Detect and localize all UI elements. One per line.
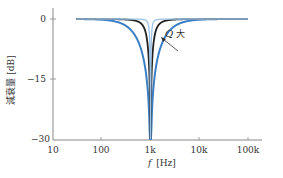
q-annotation: Q 大	[161, 28, 185, 51]
x-axis-symbol: f	[147, 158, 153, 168]
x-axis-unit: [Hz]	[156, 158, 176, 168]
notch-filter-chart: 0 −15 −30 10 100 1k 10k 100k f [Hz] 減衰量 …	[0, 0, 283, 178]
x-tick-label: 10	[47, 145, 59, 155]
y-ticks: 0 −15 −30	[27, 14, 56, 144]
x-axis-label: f [Hz]	[147, 158, 176, 168]
y-axis-label: 減衰量 [dB]	[5, 55, 16, 104]
annotation-arrow-line	[163, 39, 178, 51]
curve-low-q	[76, 19, 248, 139]
x-tick-label: 1k	[144, 145, 156, 155]
annotation-big: 大	[176, 28, 185, 39]
annotation-q: Q	[165, 28, 173, 39]
y-tick-label: −15	[27, 74, 46, 84]
y-tick-label: 0	[40, 14, 46, 24]
curve-medium-q	[76, 19, 248, 139]
x-tick-label: 10k	[191, 145, 208, 155]
x-tick-label: 100	[92, 145, 109, 155]
curve-high-q	[76, 19, 248, 139]
y-tick-label: −30	[31, 134, 50, 144]
x-tick-label: 100k	[237, 145, 260, 155]
